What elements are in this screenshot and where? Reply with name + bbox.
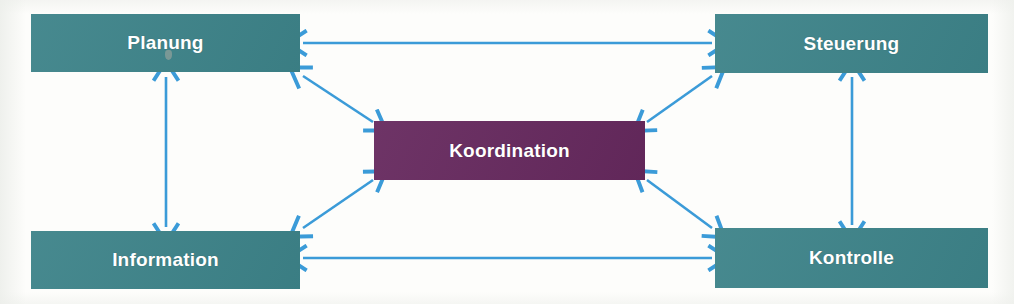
node-steuerung[interactable]: Steuerung bbox=[715, 14, 988, 73]
node-information-label: Information bbox=[112, 249, 219, 271]
node-kontrolle-label: Kontrolle bbox=[809, 247, 894, 269]
node-information[interactable]: Information bbox=[31, 231, 300, 289]
connector-kontrolle-koordination bbox=[647, 180, 712, 228]
diagram-canvas: Planung Steuerung Koordination Informati… bbox=[0, 0, 1014, 304]
node-koordination[interactable]: Koordination bbox=[374, 121, 645, 180]
node-planung-label: Planung bbox=[127, 32, 203, 54]
node-kontrolle[interactable]: Kontrolle bbox=[715, 228, 988, 288]
node-planung[interactable]: Planung bbox=[31, 14, 300, 72]
connector-steuerung-koordination bbox=[647, 76, 712, 122]
connector-planung-koordination bbox=[303, 76, 373, 122]
node-koordination-label: Koordination bbox=[449, 140, 570, 162]
connector-information-koordination bbox=[303, 180, 373, 228]
node-steuerung-label: Steuerung bbox=[804, 33, 900, 55]
